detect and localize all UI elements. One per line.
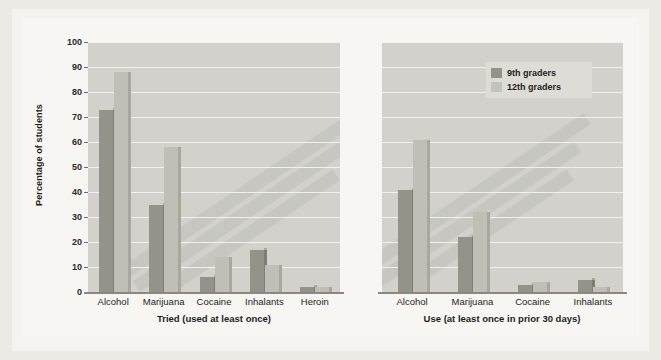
bar-side — [427, 140, 430, 293]
bar — [265, 265, 279, 293]
bar-face — [533, 282, 547, 292]
bar-face — [164, 147, 178, 292]
bar-face — [99, 110, 113, 293]
bar — [200, 277, 214, 292]
bar-top — [229, 255, 232, 257]
bar — [578, 280, 592, 293]
y-axis-tick-label: 70 — [54, 113, 82, 122]
bar-side — [487, 212, 490, 292]
bar — [114, 72, 128, 292]
y-axis-tick-label: 100 — [54, 38, 82, 47]
bar-top — [128, 70, 131, 72]
legend-label-9th: 9th graders — [507, 68, 556, 78]
y-axis-tick-label: 90 — [54, 63, 82, 72]
y-axis-tick-label: 30 — [54, 213, 82, 222]
legend: 9th graders 12th graders — [486, 62, 592, 98]
x-axis-line-right — [378, 292, 627, 294]
bar — [215, 257, 229, 292]
y-axis-tick-label: 60 — [54, 138, 82, 147]
bar — [164, 147, 178, 292]
bar-top — [279, 263, 282, 265]
gridline — [382, 117, 623, 118]
bar — [250, 250, 264, 293]
x-axis-title-right: Use (at least once in prior 30 days) — [372, 313, 632, 324]
bar-face — [265, 265, 279, 293]
bar — [149, 205, 163, 293]
bar-face — [114, 72, 128, 292]
gridline — [88, 42, 340, 43]
bar — [533, 282, 547, 292]
bar-side — [128, 72, 131, 292]
bar — [458, 237, 472, 292]
bar-side — [547, 282, 550, 292]
bar-face — [518, 285, 532, 293]
bar-top — [178, 145, 181, 147]
bar-top — [607, 285, 610, 287]
y-axis-tick-label: 10 — [54, 263, 82, 272]
y-axis-title: Percentage of students — [34, 85, 44, 225]
bar-face — [398, 190, 412, 293]
bar-face — [250, 250, 264, 293]
legend-label-12th: 12th graders — [507, 82, 561, 92]
bar — [99, 110, 113, 293]
x-axis-category-label: Inhalants — [553, 296, 633, 307]
bar-top — [427, 138, 430, 140]
bar-face — [473, 212, 487, 292]
bar-face — [215, 257, 229, 292]
bar — [473, 212, 487, 292]
gridline — [382, 42, 623, 43]
bar-face — [413, 140, 427, 293]
legend-swatch-9th-icon — [491, 68, 502, 78]
bar-face — [578, 280, 592, 293]
bar-face — [149, 205, 163, 293]
bar — [413, 140, 427, 293]
bar-top — [487, 210, 490, 212]
bar-top — [264, 248, 267, 250]
bar-top — [592, 278, 595, 280]
bar-face — [200, 277, 214, 292]
gridline — [88, 67, 340, 68]
y-axis-tick-label: 50 — [54, 163, 82, 172]
panel-tried-plot-area — [88, 42, 340, 292]
legend-item-12th[interactable]: 12th graders — [491, 80, 587, 94]
legend-item-9th[interactable]: 9th graders — [491, 66, 587, 80]
legend-swatch-12th-icon — [491, 82, 502, 92]
x-axis-title-left: Tried (used at least once) — [88, 313, 340, 324]
y-axis-tick-label: 40 — [54, 188, 82, 197]
bar-side — [178, 147, 181, 292]
x-axis-line-left — [84, 292, 344, 294]
bar-top — [329, 285, 332, 287]
bar-top — [547, 280, 550, 282]
y-axis-tick-label: 20 — [54, 238, 82, 247]
bar — [518, 285, 532, 293]
bar — [398, 190, 412, 293]
chart-figure: Percentage of students 10090807060504030… — [0, 0, 661, 360]
bar-side — [229, 257, 232, 292]
bar-face — [458, 237, 472, 292]
y-axis-tick-label: 80 — [54, 88, 82, 97]
bar-side — [279, 265, 282, 293]
x-axis-category-label: Heroin — [275, 296, 355, 307]
